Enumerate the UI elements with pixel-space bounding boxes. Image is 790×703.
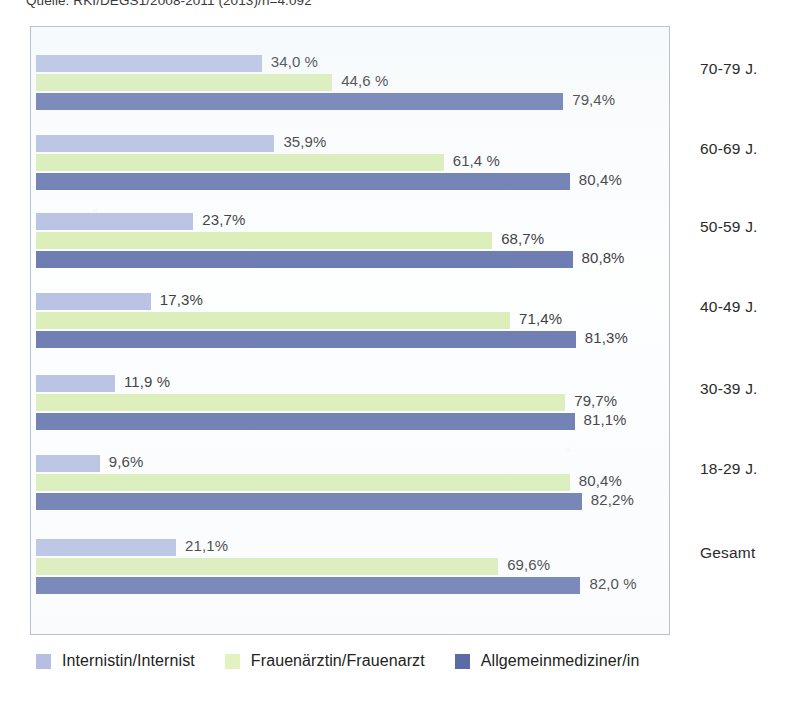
bar	[36, 474, 570, 491]
bar-row: 79,4%	[31, 93, 669, 110]
bar-row: 35,9%	[31, 135, 669, 152]
chart-plot-area: 34,0 %44,6 %79,4%35,9%61,4 %80,4%23,7%68…	[30, 26, 670, 635]
bar	[36, 312, 510, 329]
bar-row: 17,3%	[31, 293, 669, 310]
bar	[36, 93, 563, 110]
bar-value-label: 81,1%	[584, 411, 627, 428]
bar-row: 69,6%	[31, 558, 669, 575]
bar-row: 44,6 %	[31, 74, 669, 91]
category-label: 18-29 J.	[700, 460, 758, 478]
bar-row: 82,0 %	[31, 577, 669, 594]
bar-value-label: 80,4%	[579, 472, 622, 489]
bar	[36, 539, 176, 556]
category-label: Gesamt	[700, 544, 755, 562]
bar	[36, 293, 151, 310]
bar	[36, 375, 115, 392]
bar-group: 17,3%71,4%81,3%	[31, 293, 669, 349]
bar-value-label: 79,4%	[572, 91, 615, 108]
bar	[36, 577, 580, 594]
bar-group: 9,6%80,4%82,2%	[31, 455, 669, 511]
bar-value-label: 61,4 %	[453, 152, 500, 169]
bar-value-label: 44,6 %	[341, 72, 388, 89]
bar-row: 34,0 %	[31, 55, 669, 72]
bar-row: 61,4 %	[31, 154, 669, 171]
legend-label: Frauenärztin/Frauenarzt	[251, 652, 425, 670]
bar	[36, 413, 575, 430]
bar	[36, 55, 262, 72]
bar-row: 81,1%	[31, 413, 669, 430]
bar	[36, 493, 582, 510]
category-label: 40-49 J.	[700, 298, 758, 316]
bar-value-label: 80,8%	[582, 249, 625, 266]
bar-row: 71,4%	[31, 312, 669, 329]
bar-value-label: 35,9%	[283, 133, 326, 150]
bar-row: 82,2%	[31, 493, 669, 510]
bar-value-label: 81,3%	[585, 329, 628, 346]
bar-value-label: 82,0 %	[589, 575, 636, 592]
bar-value-label: 82,2%	[591, 491, 634, 508]
bar-value-label: 21,1%	[185, 537, 228, 554]
bar	[36, 74, 332, 91]
bar-group: 21,1%69,6%82,0 %	[31, 539, 669, 595]
legend-item[interactable]: Frauenärztin/Frauenarzt	[225, 652, 425, 670]
legend-swatch-icon	[455, 654, 470, 669]
bar-value-label: 68,7%	[501, 230, 544, 247]
bar-row: 9,6%	[31, 455, 669, 472]
bar-row: 23,7%	[31, 213, 669, 230]
legend-item[interactable]: Internistin/Internist	[36, 652, 195, 670]
legend-label: Internistin/Internist	[62, 652, 195, 670]
bar-row: 80,4%	[31, 474, 669, 491]
bar-value-label: 71,4%	[519, 310, 562, 327]
bar-value-label: 80,4%	[579, 171, 622, 188]
legend-label: Allgemeinmediziner/in	[481, 652, 640, 670]
bar	[36, 394, 565, 411]
bar	[36, 331, 576, 348]
bar-row: 79,7%	[31, 394, 669, 411]
bar-groups: 34,0 %44,6 %79,4%35,9%61,4 %80,4%23,7%68…	[31, 27, 669, 634]
bar	[36, 232, 492, 249]
bar-row: 11,9 %	[31, 375, 669, 392]
bar-value-label: 79,7%	[574, 392, 617, 409]
category-label: 30-39 J.	[700, 380, 758, 398]
bar-value-label: 69,6%	[507, 556, 550, 573]
bar	[36, 154, 444, 171]
bar-value-label: 17,3%	[160, 291, 203, 308]
bar-row: 68,7%	[31, 232, 669, 249]
source-note: Quelle: RKI/DEGS1/2008-2011 (2013)/n=4.0…	[26, 0, 312, 8]
legend-item[interactable]: Allgemeinmediziner/in	[455, 652, 640, 670]
bar-row: 80,4%	[31, 173, 669, 190]
category-label: 60-69 J.	[700, 140, 758, 158]
bar-row: 81,3%	[31, 331, 669, 348]
bar-value-label: 23,7%	[202, 211, 245, 228]
chart-legend: Internistin/InternistFrauenärztin/Frauen…	[36, 652, 669, 670]
category-label: 50-59 J.	[700, 218, 758, 236]
bar-row: 80,8%	[31, 251, 669, 268]
bar-group: 23,7%68,7%80,8%	[31, 213, 669, 269]
bar	[36, 558, 498, 575]
bar-value-label: 34,0 %	[271, 53, 318, 70]
bar	[36, 173, 570, 190]
bar-value-label: 11,9 %	[124, 373, 170, 390]
bar-row: 21,1%	[31, 539, 669, 556]
bar	[36, 135, 274, 152]
bar-group: 11,9 %79,7%81,1%	[31, 375, 669, 431]
bar	[36, 251, 573, 268]
bar	[36, 213, 193, 230]
bar-group: 35,9%61,4 %80,4%	[31, 135, 669, 191]
legend-swatch-icon	[225, 654, 240, 669]
bar-value-label: 9,6%	[109, 453, 144, 470]
category-label: 70-79 J.	[700, 60, 758, 78]
legend-swatch-icon	[36, 654, 51, 669]
bar	[36, 455, 100, 472]
bar-group: 34,0 %44,6 %79,4%	[31, 55, 669, 111]
